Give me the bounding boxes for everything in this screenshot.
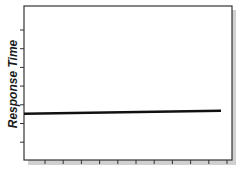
y-axis-label: Response Time [6, 40, 20, 128]
line-chart [0, 0, 240, 169]
plot-area [24, 6, 232, 160]
